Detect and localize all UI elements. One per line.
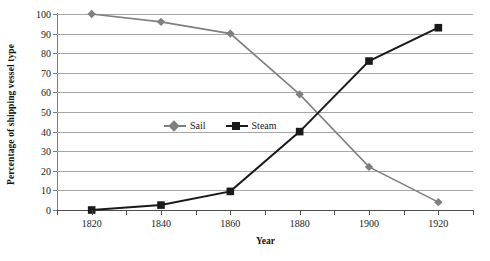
x-tick-mark: [300, 210, 301, 215]
data-point-sail-1920: [434, 198, 442, 206]
y-tick-label-90: 90: [41, 28, 51, 39]
x-tick-mark: [196, 210, 197, 215]
line-chart-figure: Percentage of shipping vessel type 01020…: [0, 0, 490, 261]
y-tick-label-40: 40: [41, 126, 51, 137]
data-point-steam-1920: [435, 24, 443, 32]
legend-entry-steam: Steam: [226, 120, 277, 131]
x-tick-label-1840: 1840: [151, 218, 171, 229]
steam-marker-icon: [226, 121, 248, 131]
x-axis-title: Year: [57, 236, 474, 246]
series-line-sail: [92, 14, 439, 202]
y-tick-label-0: 0: [46, 205, 51, 216]
x-tick-mark: [473, 210, 474, 215]
x-tick-label-1920: 1920: [428, 218, 448, 229]
x-tick-mark: [265, 210, 266, 215]
legend-label-steam: Steam: [252, 120, 277, 131]
data-point-sail-1820: [87, 10, 95, 18]
x-tick-mark: [334, 210, 335, 215]
x-tick-label-1900: 1900: [359, 218, 379, 229]
data-point-steam-1840: [157, 201, 165, 209]
x-tick-mark: [230, 210, 231, 215]
x-tick-mark: [57, 210, 58, 215]
y-tick-label-100: 100: [36, 9, 51, 20]
y-tick-label-50: 50: [41, 107, 51, 118]
y-tick-label-30: 30: [41, 146, 51, 157]
x-tick-mark: [404, 210, 405, 215]
sail-marker-icon: [164, 121, 186, 131]
data-point-sail-1840: [157, 18, 165, 26]
x-tick-label-1880: 1880: [290, 218, 310, 229]
y-axis-title: Percentage of shipping vessel type: [2, 7, 20, 222]
y-tick-label-60: 60: [41, 87, 51, 98]
chart-legend: Sail Steam: [160, 119, 281, 132]
x-tick-mark: [92, 210, 93, 215]
x-tick-mark: [438, 210, 439, 215]
legend-entry-sail: Sail: [164, 120, 206, 131]
series-plot: [57, 14, 473, 210]
data-point-steam-1900: [365, 57, 373, 65]
x-tick-label-1820: 1820: [82, 218, 102, 229]
data-point-steam-1880: [296, 128, 304, 136]
y-tick-label-20: 20: [41, 165, 51, 176]
x-tick-mark: [161, 210, 162, 215]
data-point-steam-1860: [227, 188, 235, 196]
y-tick-label-70: 70: [41, 67, 51, 78]
x-tick-mark: [369, 210, 370, 215]
y-tick-label-10: 10: [41, 185, 51, 196]
x-tick-mark: [126, 210, 127, 215]
y-tick-label-80: 80: [41, 48, 51, 59]
x-tick-label-1860: 1860: [220, 218, 240, 229]
legend-label-sail: Sail: [190, 120, 206, 131]
